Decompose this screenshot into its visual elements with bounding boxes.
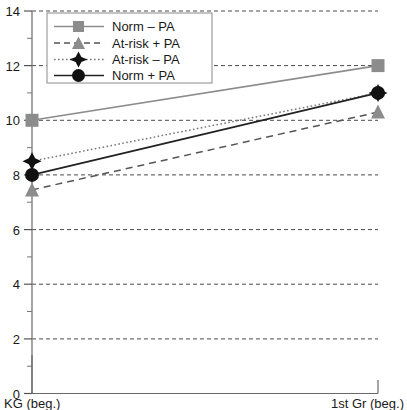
marker-at-risk-minus-pa-kg bbox=[23, 152, 42, 170]
x-tick-label-1st-gr: 1st Gr (beg.) bbox=[331, 396, 404, 410]
line-chart-plot: 14 12 10 8 6 4 2 0 KG (beg.) 1st Gr (beg… bbox=[0, 0, 407, 410]
y-tick-label-4: 4 bbox=[13, 277, 20, 292]
marker-norm-minus-pa-1st-gr bbox=[372, 59, 385, 72]
marker-norm-plus-pa-1st-gr bbox=[371, 86, 385, 100]
x-tick-label-kg: KG (beg.) bbox=[4, 396, 60, 410]
legend-label-at-risk-minus-pa: At-risk – PA bbox=[112, 52, 180, 67]
marker-at-risk-plus-pa-1st-gr bbox=[371, 105, 385, 119]
series-line-at-risk-minus-pa bbox=[32, 93, 378, 161]
y-tick-label-12: 12 bbox=[6, 59, 20, 74]
y-tick-label-14: 14 bbox=[6, 4, 20, 19]
y-tick-label-8: 8 bbox=[13, 168, 20, 183]
legend-marker-square-icon bbox=[73, 21, 84, 32]
series-lines bbox=[32, 66, 378, 190]
y-tick-label-2: 2 bbox=[13, 332, 20, 347]
series-line-norm-plus-pa bbox=[32, 93, 378, 175]
x-axis-ticks bbox=[32, 355, 378, 394]
x-axis-tick-labels: KG (beg.) 1st Gr (beg.) bbox=[4, 396, 404, 410]
legend-label-norm-plus-pa: Norm + PA bbox=[112, 68, 175, 83]
chart-legend: Norm – PA At-risk + PA At-risk – PA Norm… bbox=[47, 13, 212, 83]
y-tick-label-10: 10 bbox=[6, 113, 20, 128]
y-axis-tick-labels: 14 12 10 8 6 4 2 0 bbox=[6, 4, 20, 402]
chart-container: 14 12 10 8 6 4 2 0 KG (beg.) 1st Gr (beg… bbox=[0, 0, 407, 410]
marker-norm-minus-pa-kg bbox=[26, 114, 39, 127]
y-axis-minor-ticks bbox=[27, 38, 32, 366]
legend-marker-circle-icon bbox=[72, 69, 85, 82]
marker-norm-plus-pa-kg bbox=[25, 168, 39, 182]
y-tick-label-6: 6 bbox=[13, 223, 20, 238]
legend-label-at-risk-plus-pa: At-risk + PA bbox=[112, 36, 180, 51]
legend-label-norm-minus-pa: Norm – PA bbox=[112, 19, 175, 34]
